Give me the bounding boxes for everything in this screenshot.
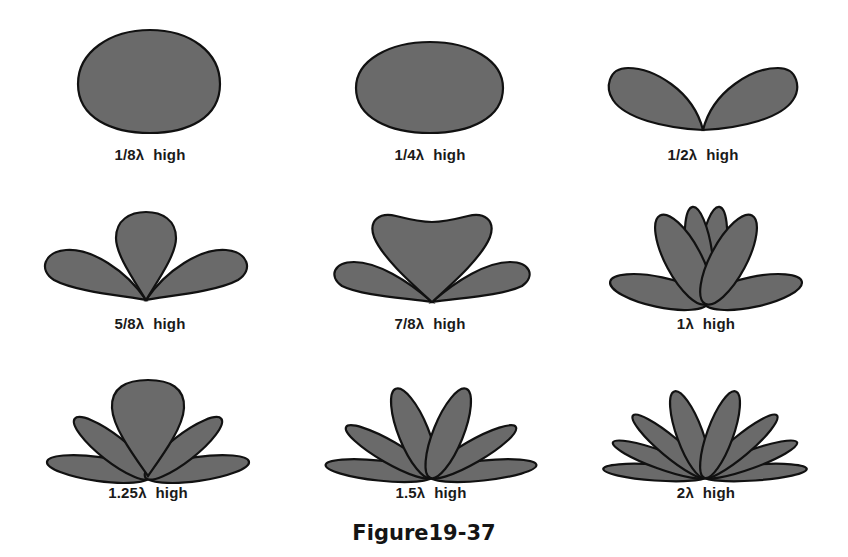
pattern-2-lambda [0, 0, 848, 557]
radiation-pattern-2-lambda [0, 0, 848, 557]
figure-caption: Figure19-37 [352, 521, 495, 545]
pattern-label: 2λ high [677, 484, 735, 501]
